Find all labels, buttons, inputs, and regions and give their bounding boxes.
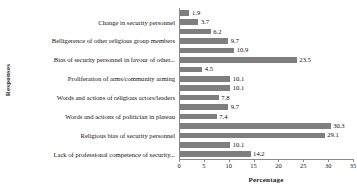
bar (180, 133, 325, 139)
category-label: Lack of professional competence of secur… (53, 150, 175, 161)
y-axis-title: Responses (1, 0, 15, 160)
x-axis-tick-label: 10 (226, 163, 232, 169)
bar-value-label: 1.9 (192, 9, 200, 16)
bar (180, 76, 230, 82)
bar-value-label: 10.1 (233, 142, 245, 149)
category-label: Change in security personnel (98, 17, 175, 28)
bar-value-label: 9.7 (231, 38, 239, 45)
bar-value-label: 3.7 (201, 19, 209, 26)
bar-value-label: 9.7 (231, 104, 239, 111)
bar (180, 19, 198, 25)
bar (180, 10, 189, 16)
bar-value-label: 6.2 (213, 28, 221, 35)
x-axis-tick-label: 5 (202, 163, 205, 169)
bar-value-label: 10.1 (233, 75, 245, 82)
bar-value-label: 30.3 (333, 123, 345, 130)
bar (180, 38, 228, 44)
bar (180, 151, 251, 157)
category-label-column: Change in security personnelBelligerence… (14, 8, 177, 159)
bar (180, 29, 211, 35)
x-axis-line: 05101520253035 (179, 159, 353, 160)
x-axis-tick-label: 15 (250, 163, 256, 169)
bar (180, 95, 219, 101)
bar-value-label: 10.9 (237, 47, 249, 54)
y-axis-title-text: Responses (4, 64, 12, 97)
bar-value-label: 10.1 (233, 85, 245, 92)
bar (180, 114, 217, 120)
bar (180, 104, 228, 110)
bar (180, 48, 234, 54)
x-axis-tick-label: 0 (177, 163, 180, 169)
category-label: Words and actions of politician in plate… (65, 112, 175, 123)
x-axis-tick-label: 30 (325, 163, 331, 169)
bar-value-label: 29.1 (327, 132, 339, 139)
category-label: Words and actions of religious actors/le… (57, 93, 175, 104)
bar-value-label: 14.2 (253, 151, 265, 158)
category-label: Belligerence of other religious group me… (52, 36, 175, 47)
bar-value-label: 7.4 (219, 113, 227, 120)
bar-value-label: 23.5 (299, 57, 311, 64)
bar-value-label: 4.5 (205, 66, 213, 73)
bar-value-label: 7.8 (221, 94, 229, 101)
bar (180, 142, 230, 148)
bar (180, 85, 230, 91)
x-axis-title: Percentage (179, 176, 353, 184)
bar-chart-figure: Responses Change in security personnelBe… (0, 0, 357, 194)
category-label: Religious bias of security personnel (81, 131, 176, 142)
plot-area: 1.93.76.29.710.923.54.510.110.17.89.77.4… (179, 8, 353, 159)
category-label: Bias of security personnel in favour of … (54, 55, 175, 66)
bar (180, 67, 202, 73)
bar (180, 57, 297, 63)
x-axis-tick-label: 20 (275, 163, 281, 169)
category-label: Proliferation of arms/community arming (68, 74, 175, 85)
x-axis-tick-label: 35 (350, 163, 356, 169)
bar (180, 123, 331, 129)
x-axis-tick-label: 25 (300, 163, 306, 169)
